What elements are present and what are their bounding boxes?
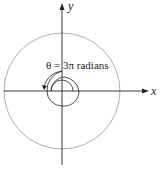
x-axis-label: x: [151, 84, 156, 99]
y-axis-label: y: [68, 0, 73, 14]
y-axis: [60, 3, 65, 165]
angle-annotation: θ = 3π radians: [46, 59, 109, 71]
angle-spiral: [42, 71, 79, 106]
y-axis-arrow-icon: [60, 3, 65, 10]
diagram-canvas: [0, 0, 161, 169]
x-axis: [4, 89, 149, 94]
spiral-arrow-icon: [42, 85, 47, 90]
x-axis-arrow-icon: [142, 89, 149, 94]
